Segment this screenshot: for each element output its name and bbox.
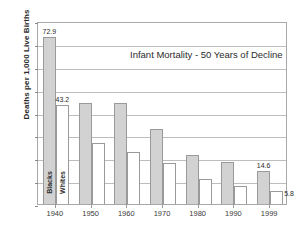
- bar-group-1970: [145, 129, 181, 204]
- y-axis-title: Deaths per 1,000 Live Births: [22, 0, 31, 145]
- bar-group-1980: [181, 155, 217, 204]
- x-tick-label-1999: 1999: [249, 209, 289, 218]
- infant-mortality-bar-chart: Deaths per 1,000 Live Births 01020304050…: [0, 0, 297, 239]
- x-tick-label-1950: 1950: [71, 209, 111, 218]
- bar-value-label: 5.8: [284, 190, 294, 197]
- bar-blacks-1980: [186, 155, 199, 204]
- x-tick-label-1940: 1940: [35, 209, 75, 218]
- bar-whites-1970: [163, 163, 176, 204]
- series-tag-whites: Whites: [59, 171, 66, 194]
- x-tick-mark: [233, 204, 234, 208]
- x-axis-labels: 1940195019601970198019901999: [37, 209, 287, 223]
- bar-whites-1999: 5.8: [270, 191, 283, 204]
- x-tick-mark: [91, 204, 92, 208]
- bar-blacks-1950: [79, 103, 92, 204]
- x-tick-mark: [162, 204, 163, 208]
- x-tick-mark: [55, 204, 56, 208]
- bar-blacks-1960: [114, 103, 127, 204]
- bar-blacks-1999: 14.6: [257, 171, 270, 204]
- bar-whites-1940: 43.2Whites: [56, 105, 69, 204]
- x-tick-label-1970: 1970: [142, 209, 182, 218]
- bar-blacks-1970: [150, 129, 163, 204]
- x-tick-label-1990: 1990: [213, 209, 253, 218]
- bar-whites-1980: [199, 179, 212, 204]
- y-tick-mark: [35, 206, 38, 207]
- bar-value-label: 43.2: [56, 96, 70, 103]
- plot-area: 01020304050607080 72.9Blacks43.2Whites14…: [37, 22, 287, 205]
- x-tick-mark: [126, 204, 127, 208]
- bar-whites-1990: [234, 186, 247, 204]
- bar-blacks-1990: [221, 162, 234, 204]
- chart-title: Infant Mortality - 50 Years of Decline: [130, 49, 283, 60]
- bar-whites-1950: [92, 143, 105, 204]
- x-tick-mark: [198, 204, 199, 208]
- bar-value-label: 14.6: [257, 162, 271, 169]
- bar-group-1940: 72.9Blacks43.2Whites: [38, 37, 74, 204]
- bar-group-1990: [217, 162, 253, 204]
- bar-group-1999: 14.65.8: [252, 171, 288, 204]
- x-tick-mark: [269, 204, 270, 208]
- bar-value-label: 72.9: [43, 28, 57, 35]
- bar-blacks-1940: 72.9Blacks: [43, 37, 56, 204]
- x-tick-label-1980: 1980: [178, 209, 218, 218]
- series-tag-blacks: Blacks: [46, 171, 53, 194]
- x-tick-label-1960: 1960: [106, 209, 146, 218]
- bar-whites-1960: [127, 152, 140, 204]
- bar-group-1950: [74, 103, 110, 204]
- bar-group-1960: [109, 103, 145, 204]
